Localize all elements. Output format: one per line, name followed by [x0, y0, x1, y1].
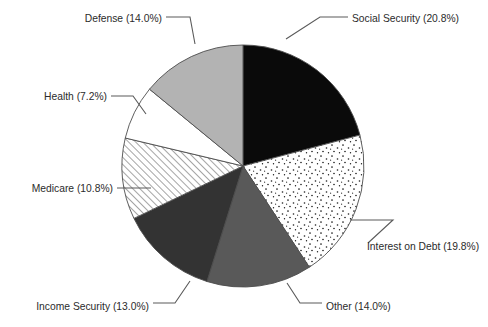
leader-line: [153, 281, 190, 303]
slice-label: Social Security (20.8%): [352, 13, 459, 24]
leader-line: [287, 283, 322, 303]
leader-line: [166, 17, 195, 44]
slice-label: Interest on Debt (19.8%): [367, 241, 479, 252]
slice-label: Defense (14.0%): [85, 13, 162, 24]
slice-label: Health (7.2%): [44, 91, 107, 102]
pie-chart-canvas: Social Security (20.8%)Interest on Debt …: [0, 0, 488, 327]
leader-line: [350, 220, 393, 243]
pie-slices: [122, 45, 364, 287]
slice-label: Medicare (10.8%): [32, 183, 113, 194]
leader-line: [286, 17, 348, 39]
slice-label: Income Security (13.0%): [36, 301, 149, 312]
pie-chart-figure: Social Security (20.8%)Interest on Debt …: [0, 0, 488, 327]
slice-label: Other (14.0%): [326, 301, 391, 312]
